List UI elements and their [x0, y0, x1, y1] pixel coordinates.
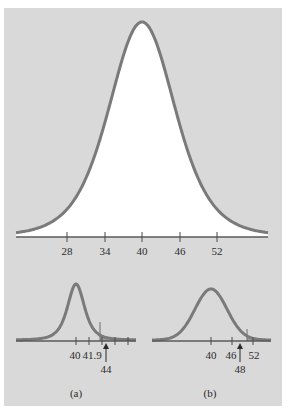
panel-b-arrow	[237, 343, 243, 362]
main-tick-label-40: 40	[137, 246, 148, 257]
main-tick-label-34: 34	[100, 246, 111, 257]
main-tick-label-28: 28	[62, 246, 73, 257]
main-tick-label-46: 46	[175, 246, 186, 257]
panel-b-tick-label-46: 46	[226, 350, 237, 361]
panel-b-caption: (b)	[204, 388, 217, 399]
panel-b-arrow-label: 48	[235, 364, 246, 375]
main-distribution	[16, 22, 268, 242]
distribution-figure	[0, 0, 289, 417]
panel-a-tick-label-40: 40	[70, 350, 81, 361]
panel-a-caption: (a)	[70, 388, 82, 399]
panel-a-tick-label-41-9: 41.9	[82, 350, 101, 361]
panel-a-arrow	[103, 343, 109, 362]
main-tick-label-52: 52	[212, 246, 223, 257]
panel-a-arrow-label: 44	[101, 364, 112, 375]
panel-b-tick-label-40: 40	[206, 350, 217, 361]
panel-b-tick-label-52: 52	[249, 350, 260, 361]
